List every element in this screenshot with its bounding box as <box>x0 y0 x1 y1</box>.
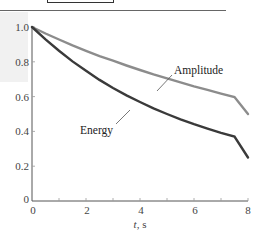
x-tick-label-8: 8 <box>245 204 251 216</box>
energy-label: Energy <box>80 124 113 137</box>
y-tick-label-0-6: 0.6 <box>15 91 29 103</box>
x-tick-label-6: 6 <box>192 204 198 216</box>
y-tick-label-0-8: 0.8 <box>15 56 29 68</box>
y-tick-label-0-2: 0.2 <box>15 160 29 172</box>
x-tick-label-2: 2 <box>84 204 90 216</box>
amplitude-label: Amplitude <box>174 64 223 77</box>
x-axis-label-unit: , s <box>137 218 147 230</box>
y-tick-label-1-0: 1.0 <box>15 21 29 33</box>
x-tick-label-0: 0 <box>30 204 36 216</box>
energy-leader-line <box>116 110 130 124</box>
x-axis-label: t, s <box>134 218 147 230</box>
x-tick-label-4: 4 <box>138 204 144 216</box>
y-tick-label-0-4: 0.4 <box>15 125 29 137</box>
chart-canvas: 1.0 0.8 0.6 0.4 0.2 0 0 2 4 6 8 t, s Amp… <box>0 0 264 242</box>
y-tick-label-0: 0 <box>24 193 30 205</box>
